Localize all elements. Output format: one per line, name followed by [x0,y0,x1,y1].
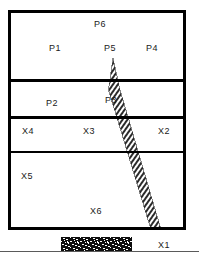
label-x5: X5 [21,172,33,181]
label-p1: P1 [49,44,61,53]
label-p2: P2 [46,99,58,108]
stippled-foundation-block [61,237,132,252]
label-p6: P6 [94,20,106,29]
label-p5: P5 [104,44,116,53]
label-x1: X1 [158,241,170,250]
label-p3: P3 [105,96,117,105]
label-x3: X3 [83,127,95,136]
label-x6: X6 [90,207,102,216]
label-x2: X2 [158,127,170,136]
label-p4: P4 [146,44,158,53]
label-x4: X4 [22,127,34,136]
section-interior [10,12,185,229]
